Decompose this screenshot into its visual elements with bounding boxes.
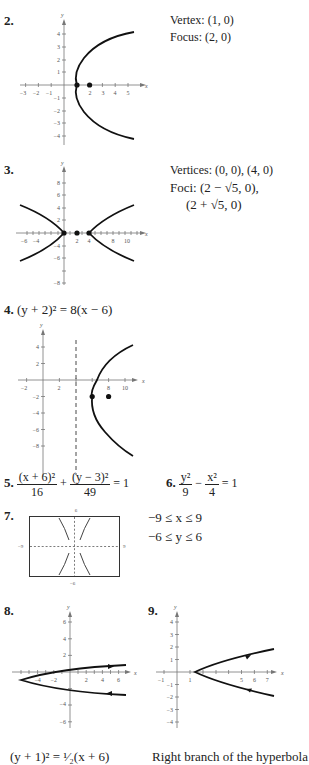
svg-text:y: y — [173, 604, 177, 610]
x-range-text: −9 ≤ x ≤ 9 — [148, 508, 202, 527]
svg-text:−2: −2 — [33, 90, 39, 96]
svg-text:8: 8 — [112, 238, 115, 244]
svg-text:2: 2 — [76, 238, 79, 244]
problem-4-header: 4. (y + 2)² = 8(x − 6) — [4, 302, 112, 318]
vertices-text: Vertices: (0, 0), (4, 0) — [170, 162, 273, 179]
svg-text:4: 4 — [63, 636, 66, 642]
svg-text:−3: −3 — [167, 707, 173, 713]
svg-text:−6: −6 — [60, 719, 66, 725]
svg-text:3: 3 — [102, 90, 105, 96]
svg-text:−4: −4 — [33, 238, 39, 244]
svg-text:2: 2 — [36, 361, 39, 367]
svg-text:−6: −6 — [54, 255, 60, 261]
svg-text:5: 5 — [240, 677, 243, 683]
problem-6: 6. y² 9 − x² 4 = 1 — [166, 470, 238, 499]
svg-text:−2: −2 — [167, 694, 173, 700]
svg-text:−4: −4 — [54, 243, 60, 249]
svg-text:4: 4 — [101, 677, 104, 683]
fraction-5a-numerator: (x + 6)² — [17, 470, 57, 485]
svg-text:−8: −8 — [33, 443, 39, 449]
svg-text:x: x — [144, 83, 148, 89]
problem-number-5: 5. — [4, 475, 14, 490]
svg-text:y: y — [60, 12, 64, 18]
svg-text:2: 2 — [57, 57, 60, 63]
fraction-6b-numerator: x² — [205, 470, 219, 485]
svg-text:−4: −4 — [34, 677, 40, 683]
svg-text:2: 2 — [170, 644, 173, 650]
svg-text:x: x — [133, 670, 137, 676]
svg-text:8: 8 — [107, 385, 110, 391]
svg-text:6: 6 — [117, 677, 120, 683]
svg-text:−6: −6 — [33, 427, 39, 433]
calculator-window-7 — [29, 516, 121, 578]
svg-text:−1: −1 — [158, 677, 164, 683]
svg-text:−2: −2 — [21, 385, 27, 391]
svg-text:−4: −4 — [54, 133, 60, 139]
window-ymin-label: −6 — [70, 581, 75, 586]
y-range-text: −6 ≤ y ≤ 6 — [148, 527, 202, 546]
svg-text:8: 8 — [57, 180, 60, 186]
answer-block-2: Vertex: (1, 0) Focus: (2, 0) — [170, 12, 234, 46]
fraction-6b: x² 4 — [205, 470, 219, 499]
vertex-text: Vertex: (1, 0) — [170, 12, 234, 29]
svg-text:2: 2 — [89, 90, 92, 96]
svg-text:1: 1 — [170, 657, 173, 663]
plus-sign: + — [60, 476, 67, 490]
graph-problem-2: x y −3−2−1 2345 4321 −1−2−3−4 — [0, 0, 160, 150]
svg-text:4: 4 — [57, 31, 60, 37]
svg-text:5: 5 — [127, 90, 130, 96]
svg-text:1: 1 — [57, 69, 60, 75]
svg-text:−4: −4 — [60, 701, 66, 707]
svg-text:2: 2 — [57, 217, 60, 223]
problem-5: 5. (x + 6)² 16 + (y − 3)² 49 = 1 — [4, 470, 129, 499]
fraction-5a-denominator: 16 — [17, 485, 57, 499]
svg-text:−3: −3 — [20, 90, 26, 96]
svg-text:x: x — [144, 231, 148, 237]
equals-one: = 1 — [222, 476, 238, 490]
svg-text:−2: −2 — [54, 108, 60, 114]
svg-text:−2: −2 — [33, 394, 39, 400]
svg-text:6: 6 — [57, 192, 60, 198]
fraction-5b-numerator: (y − 3)² — [70, 470, 110, 485]
svg-text:−6: −6 — [21, 238, 27, 244]
svg-text:10: 10 — [122, 385, 128, 391]
svg-text:−2: −2 — [51, 677, 57, 683]
problem-number-7: 7. — [4, 508, 14, 524]
minus-sign: − — [195, 476, 202, 490]
svg-text:y: y — [39, 322, 43, 328]
fraction-6a-denominator: 9 — [179, 485, 193, 499]
window-xmax-label: 9 — [123, 544, 126, 549]
fraction-6a-numerator: y² — [179, 470, 193, 485]
svg-text:10: 10 — [124, 238, 130, 244]
graph-problem-8: x y −4−2246 642 −4−6 — [0, 600, 140, 730]
problem-number-6: 6. — [166, 475, 176, 490]
svg-text:4: 4 — [170, 619, 173, 625]
svg-text:2: 2 — [58, 385, 61, 391]
svg-text:4: 4 — [57, 205, 60, 211]
caption-9: Right branch of the hyperbola — [152, 749, 308, 765]
svg-text:4: 4 — [114, 90, 117, 96]
equation-8: (y + 1)² = ¹⁄₂(x + 6) — [10, 749, 109, 765]
equation-4: (y + 2)² = 8(x − 6) — [17, 302, 112, 317]
svg-text:x: x — [141, 378, 145, 384]
fraction-5a: (x + 6)² 16 — [17, 470, 57, 499]
svg-text:x: x — [280, 670, 284, 676]
svg-text:−1: −1 — [167, 682, 173, 688]
equals-one: = 1 — [113, 476, 129, 490]
foci-text-1: Foci: (2 − √5, 0), — [170, 179, 273, 196]
svg-text:y: y — [66, 604, 70, 610]
svg-text:−4: −4 — [33, 410, 39, 416]
svg-text:4: 4 — [88, 238, 91, 244]
fraction-5b-denominator: 49 — [70, 485, 110, 499]
fraction-6b-denominator: 4 — [205, 485, 219, 499]
fraction-5b: (y − 3)² 49 — [70, 470, 110, 499]
svg-text:2: 2 — [85, 677, 88, 683]
svg-text:2: 2 — [63, 652, 66, 658]
svg-text:−1: −1 — [46, 90, 52, 96]
window-xmin-label: −9 — [18, 544, 23, 549]
answer-block-3: Vertices: (0, 0), (4, 0) Foci: (2 − √5, … — [170, 162, 273, 213]
svg-text:3: 3 — [57, 44, 60, 50]
foci-text-2: (2 + √5, 0) — [170, 196, 273, 213]
svg-text:6: 6 — [63, 619, 66, 625]
svg-text:1: 1 — [189, 677, 192, 683]
